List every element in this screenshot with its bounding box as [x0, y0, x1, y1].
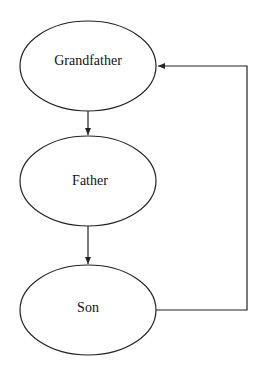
edge-son-grandfather: [156, 66, 247, 310]
node-label-father: Father: [20, 173, 160, 189]
node-label-son: Son: [18, 300, 158, 316]
node-label-grandfather: Grandfather: [18, 53, 158, 69]
